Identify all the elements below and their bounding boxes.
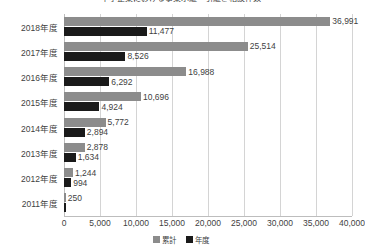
bar-value-label: 2,894 — [85, 127, 108, 137]
legend-label: 累計 — [162, 234, 176, 245]
bar-cumulative: 2,878 — [64, 143, 352, 152]
bar-value-label: 25,514 — [248, 41, 276, 51]
category-label: 2012年度 — [21, 172, 58, 184]
bar-segment — [64, 27, 147, 36]
bar-value-label: 6,292 — [109, 77, 132, 87]
legend-swatch-icon — [153, 236, 160, 243]
legend-item-cumulative[interactable]: 累計 — [153, 234, 176, 245]
x-axis-tick-labels: 05,00010,00015,00020,00025,00030,00035,0… — [0, 218, 361, 230]
bar-segment — [64, 153, 76, 162]
bar-group: 25,5148,526 — [64, 39, 352, 64]
bar-segment — [64, 168, 73, 177]
bar-value-label: 994 — [71, 178, 87, 188]
legend-item-annual[interactable]: 年度 — [186, 234, 209, 245]
bar-segment — [64, 203, 66, 212]
bar-value-label: 1,634 — [76, 152, 99, 162]
bar-segment — [64, 42, 248, 51]
category-label: 2013年度 — [21, 147, 58, 159]
bar-cumulative: 1,244 — [64, 168, 352, 177]
bar-annual: 4,924 — [64, 102, 352, 111]
bar-segment — [64, 77, 109, 86]
gridline-40000 — [352, 14, 353, 216]
x-tick-label: 20,000 — [195, 218, 221, 228]
category-label: 2017年度 — [21, 46, 58, 58]
category-label: 2014年度 — [21, 122, 58, 134]
x-tick-label: 30,000 — [267, 218, 293, 228]
bar-annual — [64, 203, 352, 212]
bar-group: 10,6964,924 — [64, 90, 352, 115]
category-label: 2011年度 — [22, 197, 58, 209]
x-tick-label: 40,000 — [339, 218, 365, 228]
bar-value-label: 16,988 — [186, 67, 214, 77]
bar-segment — [64, 143, 85, 152]
bar-annual: 11,477 — [64, 27, 352, 36]
chart-legend: 累計年度 — [0, 233, 361, 245]
x-tick-label: 35,000 — [303, 218, 329, 228]
category-label: 2016年度 — [21, 71, 58, 83]
category-axis-labels: 2018年度2017年度2016年度2015年度2014年度2013年度2012… — [0, 14, 62, 216]
bar-segment — [64, 178, 71, 187]
x-tick-label: 15,000 — [159, 218, 185, 228]
bar-segment — [64, 128, 85, 137]
bar-cumulative: 36,991 — [64, 17, 352, 26]
bar-group: 5,7722,894 — [64, 115, 352, 140]
bar-segment — [64, 67, 186, 76]
category-label: 2018年度 — [21, 21, 58, 33]
bar-value-label: 1,244 — [73, 168, 96, 178]
x-tick-label: 25,000 — [231, 218, 257, 228]
bar-segment — [64, 92, 141, 101]
bar-segment — [64, 118, 106, 127]
bar-cumulative: 5,772 — [64, 118, 352, 127]
legend-swatch-icon — [186, 236, 193, 243]
bar-rows: 36,99111,47725,5148,52616,9886,29210,696… — [64, 14, 352, 216]
bar-segment — [64, 17, 330, 26]
category-label: 2015年度 — [21, 96, 58, 108]
plot-area: 36,99111,47725,5148,52616,9886,29210,696… — [64, 14, 352, 216]
legend-label: 年度 — [195, 234, 209, 245]
bar-group: 1,244994 — [64, 166, 352, 191]
bar-value-label: 5,772 — [106, 117, 129, 127]
bar-annual: 8,526 — [64, 52, 352, 61]
x-axis-line — [64, 216, 352, 217]
bar-annual: 6,292 — [64, 77, 352, 86]
bar-cumulative: 25,514 — [64, 42, 352, 51]
bar-value-label: 36,991 — [330, 16, 358, 26]
x-tick-label: 0 — [62, 218, 67, 228]
bar-segment — [64, 102, 99, 111]
bar-value-label: 11,477 — [147, 26, 174, 36]
x-tick-label: 5,000 — [89, 218, 110, 228]
bar-cumulative: 16,988 — [64, 67, 352, 76]
x-tick-label: 10,000 — [123, 218, 149, 228]
bar-cumulative: 10,696 — [64, 92, 352, 101]
bar-group: 2,8781,634 — [64, 140, 352, 165]
bar-value-label: 4,924 — [99, 102, 122, 112]
bar-value-label: 2,878 — [85, 142, 108, 152]
bar-cumulative: 250 — [64, 193, 352, 202]
bar-group: 36,99111,477 — [64, 14, 352, 39]
bar-annual: 994 — [64, 178, 352, 187]
bar-segment — [64, 52, 125, 61]
bar-annual: 2,894 — [64, 128, 352, 137]
bar-group: 250 — [64, 191, 352, 216]
bar-value-label: 10,696 — [141, 92, 169, 102]
bar-group: 16,9886,292 — [64, 65, 352, 90]
bar-value-label: 8,526 — [125, 51, 148, 61]
bar-annual: 1,634 — [64, 153, 352, 162]
bar-value-label: 250 — [66, 193, 82, 203]
chart-title: 中小企業における事業承継・引継ぎ相談件数 — [0, 0, 361, 2]
